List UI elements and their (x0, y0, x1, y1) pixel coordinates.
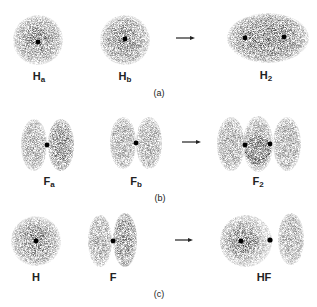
label-hb: Hb (119, 70, 132, 84)
nucleus-h (34, 239, 39, 244)
orbital-cloud-ha (13, 15, 63, 65)
label-f2: F2 (252, 175, 263, 189)
caption-c: (c) (154, 289, 165, 299)
label-h2: H2 (260, 69, 272, 83)
nucleus-fa (45, 143, 50, 148)
p-orbital-f (88, 213, 137, 267)
label-h: H (32, 271, 40, 283)
orbital-cloud-h2 (227, 13, 309, 63)
nucleus-hf-f (267, 237, 272, 242)
nucleus-hf-h (239, 239, 244, 244)
nucleus-ha (36, 40, 41, 45)
nucleus-hb (123, 37, 128, 42)
label-ha: Ha (33, 70, 45, 84)
panel-a (13, 13, 309, 65)
label-fb: Fb (130, 175, 142, 189)
caption-b: (b) (155, 193, 166, 203)
label-hf: HF (257, 271, 272, 283)
reaction-arrow-a (176, 36, 195, 40)
caption-a: (a) (154, 88, 165, 98)
orbital-cloud-hf (220, 213, 304, 267)
nucleus-h2-left (243, 36, 248, 41)
nucleus-h2-right (282, 35, 287, 40)
nucleus-fb (134, 141, 139, 146)
sigma-bond-f2 (217, 116, 301, 172)
panel-b (21, 116, 301, 172)
reaction-arrow-b (182, 140, 201, 144)
orbital-cloud-hb (100, 15, 150, 65)
nucleus-f (111, 239, 116, 244)
panel-c (11, 213, 304, 267)
nucleus-f2-left (243, 143, 248, 148)
orbital-cloud-h (11, 216, 61, 266)
label-f: F (110, 271, 117, 283)
label-fa: Fa (43, 175, 54, 189)
p-orbital-fb (110, 117, 162, 169)
orbital-overlap-diagram (0, 0, 317, 307)
reaction-arrow-c (175, 238, 193, 242)
p-orbital-fa (21, 119, 74, 171)
nucleus-f2-right (268, 142, 273, 147)
